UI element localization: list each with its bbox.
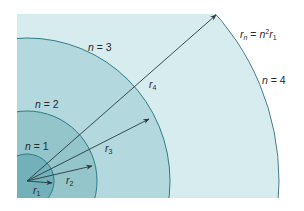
bohr-radii-diagram: n = 1 n = 2 n = 3 n = 4 r1 r2 r3 r4 rn =… <box>0 0 304 211</box>
label-n3: n = 3 <box>88 41 112 53</box>
label-n4: n = 4 <box>262 74 286 86</box>
formula-rn: rn = n2r1 <box>240 28 277 41</box>
label-n2: n = 2 <box>35 98 59 110</box>
label-n1: n = 1 <box>25 140 49 152</box>
